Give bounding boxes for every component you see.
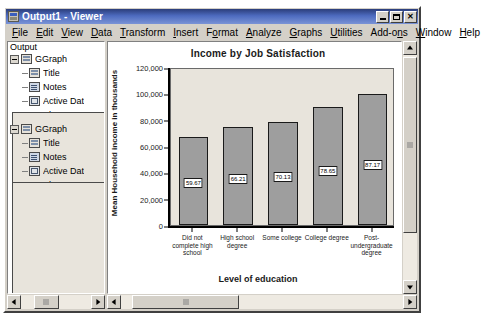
- outline-node-ggraph[interactable]: GGraph: [8, 52, 104, 66]
- outline-node-list: GGraphTitleNotesActive DatGraphGGraphTit…: [8, 52, 104, 192]
- outline-node-notes[interactable]: Notes: [8, 150, 104, 164]
- viewer-pane: Income by Job Satisfaction Mean Househol…: [107, 41, 417, 309]
- bar-value-label: 78.65: [318, 166, 337, 176]
- chart-x-axis-labels: Did not complete high schoolHigh school …: [170, 234, 394, 270]
- y-tick-label: 40,000: [140, 169, 163, 178]
- title-icon: [29, 138, 40, 148]
- outline-tree[interactable]: Output GGraphTitleNotesActive DatGraphGG…: [7, 41, 105, 294]
- bar-chart[interactable]: Income by Job Satisfaction Mean Househol…: [112, 46, 402, 294]
- output-canvas[interactable]: Income by Job Satisfaction Mean Househol…: [107, 41, 402, 294]
- menu-graphs[interactable]: Graphs: [285, 26, 326, 39]
- graph-icon: [12, 182, 105, 294]
- x-tick-mark: [282, 228, 283, 232]
- outline-node-notes[interactable]: Notes: [8, 80, 104, 94]
- active-dataset-icon: [29, 96, 40, 106]
- outline-node-label: GGraph: [35, 122, 67, 136]
- workspace: Output GGraphTitleNotesActive DatGraphGG…: [7, 41, 417, 309]
- chart-y-axis-ticks: 020,00040,00060,00080,000100,000120,000: [112, 68, 168, 226]
- notes-icon: [29, 82, 40, 92]
- tree-connector: [22, 171, 28, 172]
- active-dataset-icon: [29, 166, 40, 176]
- outline-node-title[interactable]: Title: [8, 66, 104, 80]
- y-tick-label: 60,000: [140, 143, 163, 152]
- maximize-button[interactable]: [390, 11, 403, 23]
- outline-node-label: GGraph: [35, 52, 67, 66]
- outline-hscroll-track[interactable]: [21, 295, 91, 309]
- menu-utilities[interactable]: Utilities: [326, 26, 366, 39]
- y-tick-label: 120,000: [136, 64, 163, 73]
- menubar: FileEditViewDataTransformInsertFormatAna…: [6, 25, 418, 40]
- outline-node-active-dat[interactable]: Active Dat: [8, 94, 104, 108]
- output-book-icon: [21, 124, 32, 134]
- bar-value-label: 70.13: [273, 172, 292, 182]
- bar-value-label: 87.17: [363, 160, 382, 170]
- menu-insert[interactable]: Insert: [169, 26, 202, 39]
- menu-add-ons[interactable]: Add-ons: [367, 26, 412, 39]
- scroll-grip-icon: [46, 299, 47, 305]
- bar-value-label: 59.67: [184, 178, 203, 188]
- minimize-button[interactable]: [376, 11, 389, 23]
- chart-bars: 59.6766.2170.1378.6587.17: [171, 69, 393, 225]
- outline-node-active-dat[interactable]: Active Dat: [8, 164, 104, 178]
- x-tick-label: High school degree: [213, 234, 261, 249]
- outline-root-label: Output: [8, 42, 104, 52]
- scroll-right-arrow[interactable]: [91, 295, 105, 309]
- x-tick-mark: [192, 228, 193, 232]
- tree-connector: [22, 157, 28, 158]
- outline-pane: Output GGraphTitleNotesActive DatGraphGG…: [7, 41, 105, 309]
- bar-value-label: 66.21: [229, 174, 248, 184]
- outline-horizontal-scrollbar[interactable]: [7, 295, 105, 309]
- y-tick-label: 0: [159, 222, 163, 231]
- x-tick-label: College degree: [303, 234, 351, 242]
- menu-edit[interactable]: Edit: [32, 26, 57, 39]
- outline-node-graph[interactable]: Graph: [8, 178, 104, 192]
- menu-data[interactable]: Data: [87, 26, 116, 39]
- outline-node-label: Title: [43, 66, 60, 80]
- chart-title: Income by Job Satisfaction: [112, 48, 402, 59]
- outline-node-label: Notes: [43, 80, 67, 94]
- scroll-left-arrow[interactable]: [107, 295, 121, 309]
- scroll-down-arrow[interactable]: [403, 280, 417, 294]
- outline-node-ggraph[interactable]: GGraph: [8, 122, 104, 136]
- outline-node-title[interactable]: Title: [8, 136, 104, 150]
- viewer-hscroll-thumb[interactable]: [132, 295, 239, 309]
- scroll-right-arrow[interactable]: [403, 295, 417, 309]
- window-controls: ✕: [376, 11, 417, 23]
- menu-file[interactable]: File: [8, 26, 32, 39]
- viewer-horizontal-scrollbar[interactable]: [107, 295, 417, 309]
- notes-icon: [29, 152, 40, 162]
- tree-connector: [22, 73, 28, 74]
- x-tick-mark: [371, 228, 372, 232]
- menu-analyze[interactable]: Analyze: [242, 26, 286, 39]
- collapse-toggle-icon[interactable]: [10, 125, 19, 134]
- menu-transform[interactable]: Transform: [116, 26, 169, 39]
- menu-format[interactable]: Format: [202, 26, 242, 39]
- menu-window[interactable]: Window: [412, 26, 456, 39]
- x-tick-mark: [237, 228, 238, 232]
- x-tick-label: Did not complete high school: [168, 234, 216, 257]
- chart-x-axis-title: Level of education: [112, 274, 402, 284]
- outline-node-label: Title: [43, 136, 60, 150]
- y-tick-label: 20,000: [140, 195, 163, 204]
- chart-plot-area: 59.6766.2170.1378.6587.17: [170, 68, 394, 226]
- window-titlebar[interactable]: Output1 - Viewer ✕: [6, 9, 418, 24]
- viewer-vertical-scrollbar[interactable]: [403, 41, 417, 294]
- y-tick-label: 80,000: [140, 116, 163, 125]
- outline-hscroll-thumb[interactable]: [34, 295, 59, 309]
- scroll-grip-icon: [185, 299, 186, 305]
- outline-node-graph[interactable]: Graph: [8, 108, 104, 122]
- scroll-up-arrow[interactable]: [403, 41, 417, 55]
- menu-help[interactable]: Help: [455, 26, 484, 39]
- x-tick-label: Post-undergraduate degree: [348, 234, 396, 257]
- spss-viewer-window: Output1 - Viewer ✕ FileEditViewDataTrans…: [3, 6, 421, 313]
- tree-connector: [22, 101, 28, 102]
- viewer-hscroll-track[interactable]: [121, 295, 403, 309]
- output-book-icon: [21, 54, 32, 64]
- scroll-left-arrow[interactable]: [7, 295, 21, 309]
- window-title: Output1 - Viewer: [22, 11, 376, 22]
- viewer-vscroll-track[interactable]: [403, 55, 417, 280]
- close-button[interactable]: ✕: [404, 11, 417, 23]
- menu-view[interactable]: View: [57, 26, 87, 39]
- viewer-vscroll-thumb[interactable]: [403, 57, 417, 233]
- collapse-toggle-icon[interactable]: [10, 55, 19, 64]
